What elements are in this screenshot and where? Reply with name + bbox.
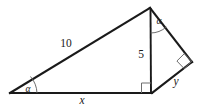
altitude-edge: [151, 9, 152, 93]
hypotenuse-edge: [10, 8, 150, 93]
hypotenuse-label: 10: [60, 37, 72, 49]
geometry-figure: 10 5 x y α α: [0, 0, 203, 107]
right-angle-square-corner-icon: [177, 54, 192, 69]
base-label: x: [78, 94, 85, 106]
angle-arc-apex-icon: [151, 27, 167, 33]
right-angle-square-base-icon: [142, 83, 152, 93]
figure-canvas: 10 5 x y α α: [0, 0, 203, 107]
right-side-label: y: [172, 75, 179, 88]
altitude-label: 5: [138, 48, 144, 60]
